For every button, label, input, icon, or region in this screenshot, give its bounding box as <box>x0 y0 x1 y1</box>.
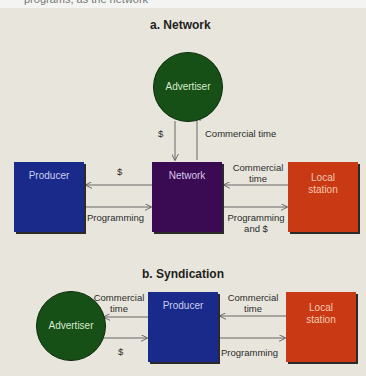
edge-label-commercial-time: Commercial time <box>228 162 288 184</box>
edge-label-commercial-time: Commercial time <box>88 292 150 314</box>
node-label: Producer <box>148 300 218 312</box>
syndication-producer-node: Producer <box>148 292 218 362</box>
caption-text: programs, as the network <box>24 0 148 5</box>
edge-label-commercial-time: Commercial time <box>205 128 276 139</box>
node-label: Local station <box>288 172 358 196</box>
node-label: Producer <box>14 170 84 182</box>
network-diagram-title: a. Network <box>150 18 211 32</box>
edge-label-commercial-time: Commercial time <box>222 292 284 314</box>
edge-label-programming: Programming <box>221 347 278 358</box>
syndication-local-station-node: Local station <box>286 292 356 362</box>
network-network-node: Network <box>152 162 222 232</box>
syndication-diagram-title: b. Syndication <box>142 267 224 281</box>
edge-label-dollar: $ <box>158 128 163 139</box>
edge-label-programming: Programming <box>87 212 144 223</box>
node-label: Advertiser <box>37 320 105 331</box>
edge-label-programming-and-dollar: Programming and $ <box>224 212 288 234</box>
network-local-station-node: Local station <box>288 162 358 232</box>
network-advertiser-node: Advertiser <box>153 52 223 122</box>
edge-label-dollar: $ <box>117 166 122 177</box>
caption-fragment: programs, as the network <box>0 0 366 8</box>
node-label: Network <box>152 170 222 182</box>
network-producer-node: Producer <box>14 162 84 232</box>
node-label: Advertiser <box>154 81 222 92</box>
edge-label-dollar: $ <box>118 346 123 357</box>
node-label: Local station <box>286 302 356 326</box>
